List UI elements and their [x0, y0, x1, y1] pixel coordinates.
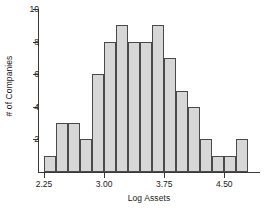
histogram-bar: [56, 123, 68, 172]
plot-area: [0, 0, 266, 210]
histogram-bar: [140, 42, 152, 172]
histogram-bar: [116, 25, 128, 172]
histogram-bar: [80, 139, 92, 172]
histogram-figure: # of Companies 246810 2.253.003.754.50 L…: [0, 0, 266, 210]
histogram-bar: [164, 58, 176, 172]
histogram-bar: [212, 156, 224, 172]
histogram-bar: [104, 42, 116, 172]
histogram-bar: [236, 139, 248, 172]
histogram-bar: [200, 139, 212, 172]
histogram-bar: [152, 25, 164, 172]
histogram-bar: [44, 156, 56, 172]
histogram-bar: [92, 74, 104, 172]
histogram-bar: [68, 123, 80, 172]
x-axis-title: Log Assets: [38, 193, 260, 203]
histogram-bar: [224, 156, 236, 172]
histogram-bar: [188, 107, 200, 172]
histogram-bar: [176, 91, 188, 173]
histogram-bar: [128, 42, 140, 172]
